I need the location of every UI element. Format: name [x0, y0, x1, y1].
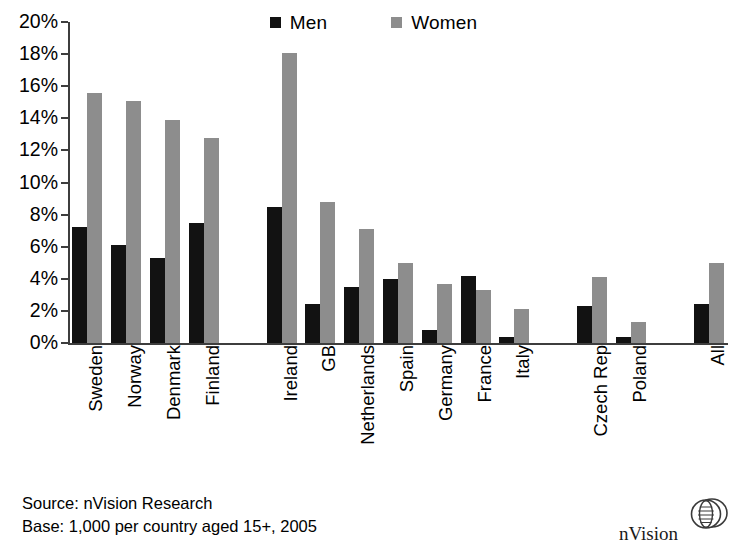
y-axis-tick-label: 2%: [30, 301, 58, 321]
nvision-globe-icon: [685, 495, 729, 535]
bar-gb-men: [305, 304, 320, 343]
x-axis-label-slot: Italy: [495, 345, 534, 475]
y-axis-tick-label: 8%: [30, 205, 58, 225]
bar-czech-rep-women: [592, 277, 607, 343]
y-axis-tick-label: 12%: [19, 140, 58, 160]
y-axis-tick: [61, 214, 68, 216]
bar-czech-rep-men: [577, 306, 592, 343]
y-axis-tick: [61, 246, 68, 248]
bar-france-women: [476, 290, 491, 343]
x-axis-label-slot: Spain: [379, 345, 418, 475]
bar-italy-women: [514, 309, 529, 343]
y-axis-tick-label: 10%: [19, 173, 58, 193]
x-axis-tick-label: Netherlands: [359, 345, 378, 445]
x-axis-tick-label: France: [476, 345, 495, 403]
x-axis-tick-label: Spain: [398, 345, 417, 392]
y-axis-line: [68, 22, 70, 343]
y-axis-tick: [61, 21, 68, 23]
bar-netherlands-men: [344, 287, 359, 343]
y-axis-tick: [61, 278, 68, 280]
x-axis-label-slot: Ireland: [262, 345, 301, 475]
x-axis-labels: SwedenNorwayDenmarkFinlandIrelandGBNethe…: [68, 345, 728, 475]
bar-poland-women: [631, 322, 646, 343]
bar-germany-women: [437, 284, 452, 343]
bar-denmark-women: [165, 120, 180, 343]
x-axis-label-slot: Czech Rep: [573, 345, 612, 475]
y-axis-tick-label: 6%: [30, 237, 58, 257]
y-axis-tick-label: 16%: [19, 76, 58, 96]
x-axis-tick-label: All: [709, 345, 728, 366]
x-axis-tick-label: Denmark: [165, 345, 184, 420]
brand-logo: nVision: [619, 495, 731, 547]
y-axis-labels: 20%18%16%14%12%10%8%6%4%2%0%: [0, 22, 58, 343]
y-axis-tick: [61, 342, 68, 344]
x-axis-tick-label: Norway: [126, 345, 145, 408]
bar-netherlands-women: [359, 229, 374, 343]
y-axis-tick-label: 14%: [19, 108, 58, 128]
x-axis-label-slot: Norway: [107, 345, 146, 475]
bar-france-men: [461, 276, 476, 343]
x-axis-label-slot: Poland: [612, 345, 651, 475]
footnote-base: Base: 1,000 per country aged 15+, 2005: [22, 515, 317, 538]
chart-footnotes: Source: nVision Research Base: 1,000 per…: [22, 492, 317, 538]
bar-germany-men: [422, 330, 437, 343]
y-axis-tick: [61, 182, 68, 184]
y-axis-tick: [61, 53, 68, 55]
y-axis-tick-label: 18%: [19, 44, 58, 64]
bar-gb-women: [320, 202, 335, 343]
x-axis-tick-label: Czech Rep: [592, 345, 611, 437]
y-axis-tick-label: 20%: [19, 12, 58, 32]
bar-spain-women: [398, 263, 413, 343]
x-axis-tick-label: Germany: [437, 345, 456, 421]
y-axis-tick: [61, 149, 68, 151]
bar-italy-men: [499, 337, 514, 343]
x-axis-label-slot: Denmark: [146, 345, 185, 475]
y-axis-tick-label: 0%: [30, 333, 58, 353]
x-axis-tick-label: Italy: [514, 345, 533, 379]
x-axis-label-slot: Germany: [417, 345, 456, 475]
y-axis-tick: [61, 117, 68, 119]
bar-sweden-men: [72, 227, 87, 343]
x-axis-label-slot: Finland: [184, 345, 223, 475]
bar-norway-men: [111, 245, 126, 343]
x-axis-tick-label: Poland: [631, 345, 650, 403]
plot-area: [68, 22, 728, 343]
footnote-source: Source: nVision Research: [22, 492, 317, 515]
bar-all-women: [709, 263, 724, 343]
x-axis-tick-label: Ireland: [282, 345, 301, 402]
bar-all-men: [694, 304, 709, 343]
x-axis-tick-label: Finland: [204, 345, 223, 406]
x-axis-label-slot: All: [689, 345, 728, 475]
x-axis-label-slot: France: [456, 345, 495, 475]
x-axis-label-slot: Sweden: [68, 345, 107, 475]
x-axis-tick-label: Sweden: [87, 345, 106, 412]
y-axis-tick: [61, 310, 68, 312]
bar-norway-women: [126, 101, 141, 343]
bar-ireland-women: [282, 53, 297, 344]
bar-spain-men: [383, 279, 398, 343]
bar-finland-men: [189, 223, 204, 343]
x-axis-label-slot: GB: [301, 345, 340, 475]
y-axis-tick: [61, 85, 68, 87]
bar-poland-men: [616, 337, 631, 343]
bar-finland-women: [204, 138, 219, 343]
chart-figure: Men Women 20%18%16%14%12%10%8%6%4%2%0% S…: [0, 0, 747, 553]
bar-denmark-men: [150, 258, 165, 343]
bar-ireland-men: [267, 207, 282, 343]
x-axis-tick-label: GB: [320, 345, 339, 372]
brand-name: nVision: [619, 524, 678, 543]
x-axis-label-slot: Netherlands: [340, 345, 379, 475]
y-axis-tick-label: 4%: [30, 269, 58, 289]
bar-sweden-women: [87, 93, 102, 343]
